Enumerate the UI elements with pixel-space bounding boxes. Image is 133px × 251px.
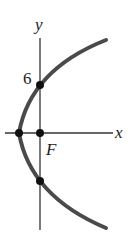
y-axis-label: y	[33, 15, 43, 34]
vertex-point	[15, 129, 23, 137]
parabola-curve	[19, 40, 106, 228]
upper-intercept-point	[36, 81, 44, 89]
lower-intercept-point	[36, 177, 44, 185]
y-intercept-label: 6	[23, 69, 32, 88]
x-axis-label: x	[114, 123, 123, 142]
focus-point	[36, 129, 44, 137]
parabola-diagram: y x 6 F	[0, 0, 133, 251]
focus-label: F	[45, 140, 57, 159]
